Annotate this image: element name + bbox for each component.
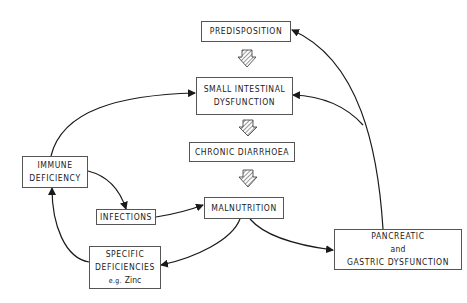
node-label: SPECIFIC (106, 248, 145, 261)
arrow-pancreatic-to-small-intestinal (293, 95, 363, 125)
node-example: e.g. Zinc (109, 274, 142, 288)
node-predisposition: PREDISPOSITION (201, 21, 291, 42)
arrow-malnutrition-to-pancreatic (250, 219, 333, 250)
arrow-specific-to-immune (52, 188, 89, 262)
node-immune-deficiency: IMMUNE DEFICIENCY (22, 156, 88, 188)
arrow-immune-to-infections (88, 171, 126, 209)
node-label: IMMUNE (37, 159, 72, 172)
example-value: Zinc (125, 275, 141, 285)
node-label: CHRONIC DIARRHOEA (195, 146, 289, 159)
node-infections: INFECTIONS (96, 209, 156, 225)
node-pancreatic-gastric-dysfunction: PANCREATIC and GASTRIC DYSFUNCTION (334, 229, 462, 270)
node-malnutrition: MALNUTRITION (204, 197, 284, 219)
malnutrition-cycle-diagram: PREDISPOSITION SMALL INTESTINAL DYSFUNCT… (0, 0, 467, 303)
node-label: DYSFUNCTION (214, 96, 275, 109)
hatched-arrow-small-intestinal-to-diarrhoea (239, 120, 257, 136)
node-label: INFECTIONS (100, 211, 152, 224)
arrow-malnutrition-to-specific-deficiencies (161, 219, 240, 265)
node-label: DEFICIENCY (29, 172, 80, 185)
node-label: DEFICIENCIES (95, 261, 155, 274)
arrow-pancreatic-to-predisposition (292, 30, 383, 229)
node-label: GASTRIC DYSFUNCTION (347, 256, 449, 269)
node-label: MALNUTRITION (211, 202, 277, 215)
arrow-immune-to-small-intestinal (51, 93, 195, 156)
node-label: SMALL INTESTINAL (204, 83, 286, 96)
node-label: PANCREATIC (371, 230, 424, 243)
node-small-intestinal-dysfunction: SMALL INTESTINAL DYSFUNCTION (196, 77, 293, 115)
hatched-arrow-diarrhoea-to-malnutrition (239, 170, 257, 187)
node-label: PREDISPOSITION (210, 25, 283, 38)
node-chronic-diarrhoea: CHRONIC DIARRHOEA (189, 142, 295, 162)
node-label: and (391, 243, 406, 256)
hatched-arrow-predisposition-to-small-intestinal (238, 50, 256, 67)
example-prefix: e.g. (109, 277, 122, 285)
arrow-infections-to-malnutrition (156, 205, 203, 217)
node-specific-deficiencies: SPECIFIC DEFICIENCIES e.g. Zinc (89, 246, 161, 289)
